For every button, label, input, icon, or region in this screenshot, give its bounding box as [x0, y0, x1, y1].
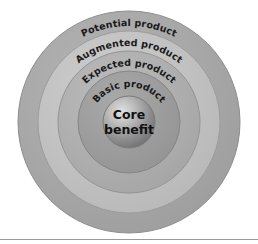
product-levels-diagram: Potential product Augmented product Expe…	[0, 0, 258, 244]
core-benefit-label-line2: benefit	[104, 122, 154, 137]
core-benefit-label-line1: Core	[113, 107, 145, 122]
concentric-circles-svg: Potential product Augmented product Expe…	[0, 0, 258, 244]
bottom-divider	[0, 239, 258, 240]
